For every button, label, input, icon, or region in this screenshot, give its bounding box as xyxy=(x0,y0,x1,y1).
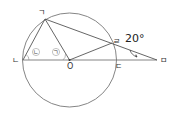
geometry-diagram: ㄴ ㄱ ㄱ ㄴ O ㄷ ㄹ ㅁ 20° xyxy=(0,0,179,120)
given-angle-label: 20° xyxy=(125,32,145,45)
label-rieul: ㄹ xyxy=(113,37,120,46)
angle-arc-nieun xyxy=(26,55,29,61)
radius-o-rieul xyxy=(70,43,113,60)
label-digeut: ㄷ xyxy=(115,62,122,71)
angle-arc-o xyxy=(63,54,66,60)
angle-marker-giyeok: ㄱ xyxy=(53,48,59,55)
label-o: O xyxy=(67,62,73,71)
label-giyeok: ㄱ xyxy=(38,8,45,17)
label-mieum: ㅁ xyxy=(160,56,167,65)
label-nieun: ㄴ xyxy=(12,56,19,65)
center-dot xyxy=(69,59,71,61)
angle-marker-nieun: ㄴ xyxy=(33,48,39,55)
